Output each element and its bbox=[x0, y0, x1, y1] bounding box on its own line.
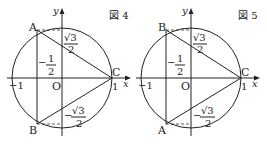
fraction-sqrt3-over-2: √3 2 bbox=[193, 32, 207, 55]
figure-4: A B C O −1 1 x y 図 4 √3 2 − 1 2 − √3 2 bbox=[7, 5, 131, 137]
svg-text:−: − bbox=[38, 57, 46, 68]
unit-circle-diagrams: A B C O −1 1 x y 図 4 √3 2 − 1 2 − √3 2 bbox=[0, 0, 267, 144]
svg-text:2: 2 bbox=[177, 66, 183, 77]
origin-label: O bbox=[181, 80, 190, 93]
point-a-label: A bbox=[157, 124, 167, 137]
svg-text:1: 1 bbox=[48, 53, 54, 64]
svg-text:2: 2 bbox=[48, 66, 54, 77]
figure-title: 図 4 bbox=[109, 10, 129, 21]
fraction-sqrt3-over-2: √3 2 bbox=[64, 32, 78, 55]
y-axis-label: y bbox=[52, 5, 59, 16]
svg-text:2: 2 bbox=[68, 44, 74, 55]
tick-neg1-label: −1 bbox=[9, 80, 24, 91]
tick-1-label: 1 bbox=[112, 81, 118, 92]
point-c-label: C bbox=[241, 66, 249, 79]
svg-text:√3: √3 bbox=[64, 32, 77, 43]
point-b-label: B bbox=[158, 21, 166, 34]
point-a-label: A bbox=[28, 21, 38, 34]
svg-text:√3: √3 bbox=[201, 105, 214, 116]
svg-text:√3: √3 bbox=[193, 32, 206, 43]
point-b-label: B bbox=[29, 124, 37, 137]
x-axis-label: x bbox=[123, 78, 129, 89]
fraction-neg-half: − 1 2 bbox=[167, 53, 185, 77]
fraction-neg-sqrt3-over-2: − √3 2 bbox=[64, 105, 86, 129]
svg-text:1: 1 bbox=[177, 53, 183, 64]
y-axis-arrow-icon bbox=[60, 8, 65, 14]
figure-5: B A C O −1 1 x y 図 5 √3 2 − 1 2 − √3 2 bbox=[136, 5, 260, 137]
svg-text:−: − bbox=[167, 57, 175, 68]
fraction-neg-half: − 1 2 bbox=[38, 53, 56, 77]
svg-text:√3: √3 bbox=[72, 105, 85, 116]
tick-1-label: 1 bbox=[241, 81, 247, 92]
tick-neg1-label: −1 bbox=[138, 80, 153, 91]
y-axis-arrow-icon bbox=[189, 8, 194, 14]
fraction-neg-sqrt3-over-2: − √3 2 bbox=[193, 105, 215, 129]
origin-label: O bbox=[52, 80, 61, 93]
y-axis-label: y bbox=[181, 5, 188, 16]
point-c-label: C bbox=[112, 66, 120, 79]
svg-text:2: 2 bbox=[76, 118, 82, 129]
svg-text:2: 2 bbox=[197, 44, 203, 55]
x-axis-label: x bbox=[252, 78, 258, 89]
figure-title: 図 5 bbox=[238, 10, 258, 21]
svg-text:2: 2 bbox=[205, 118, 211, 129]
